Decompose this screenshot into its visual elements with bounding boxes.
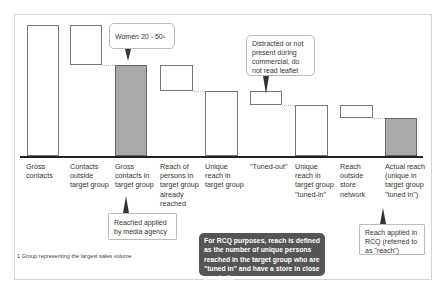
- callout-pointer-icon: [123, 196, 129, 213]
- callout-pointer-icon: [380, 208, 386, 224]
- label-contacts-outside-target: Contacts outside target group: [70, 162, 110, 190]
- label-unique-tuned-in: Unique reach in target group "tuned-in": [295, 162, 335, 199]
- bar-unique-reach: [205, 91, 238, 156]
- bar-unique-tuned-in: [295, 105, 328, 156]
- callout-media-agency: Reached applied by media agency: [108, 213, 177, 240]
- callout-pointer-icon: [263, 76, 269, 94]
- bar-actual-reach: [385, 118, 417, 156]
- connector-line: [282, 105, 295, 106]
- callout-women: Women 20 - 50¹: [109, 23, 175, 49]
- label-actual-reach: Actual reach (unique in target group "tu…: [385, 162, 429, 199]
- bar-gross-contacts: [27, 25, 59, 156]
- connector-line: [102, 65, 115, 66]
- connector-line: [373, 118, 385, 119]
- label-outside-store: Reach outside store network: [340, 162, 378, 199]
- chart-baseline: [20, 156, 423, 158]
- footnote: 1 Group representing the largest sales v…: [17, 253, 132, 259]
- label-tuned-out: "Tuned-out": [250, 162, 294, 171]
- label-already-reached: Reach of persons in target group already…: [160, 162, 202, 208]
- rcq-definition-note: For RCQ purposes, reach is defined as th…: [199, 233, 325, 276]
- label-gross-contacts-target: Gross contacts in target group: [115, 162, 157, 190]
- callout-distracted: Distracted or not present during commerc…: [246, 35, 315, 76]
- bar-contacts-outside-target: [70, 25, 102, 65]
- callout-pointer-icon: [125, 49, 131, 61]
- callout-rcq-reach: Reach applied in RCQ (referred to as "re…: [359, 224, 425, 255]
- bar-already-reached: [160, 65, 193, 91]
- bar-outside-store: [340, 105, 373, 118]
- label-gross-contacts: Gross contacts: [26, 162, 70, 180]
- bar-gross-contacts-target: [115, 65, 147, 156]
- label-unique-reach: Unique reach in target group: [205, 162, 247, 190]
- connector-line: [193, 91, 205, 92]
